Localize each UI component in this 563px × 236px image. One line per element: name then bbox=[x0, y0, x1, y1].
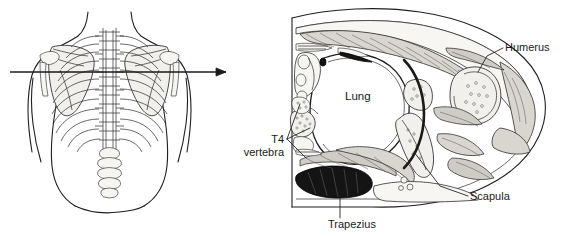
label-humerus: Humerus bbox=[505, 41, 550, 53]
anatomy-figure: Humerus Lung T4 vertebra Scapula Trapezi… bbox=[0, 0, 563, 236]
label-t4-line1: T4 bbox=[271, 133, 284, 145]
label-lung: Lung bbox=[345, 90, 371, 102]
label-t4-line2: vertebra bbox=[244, 146, 285, 158]
label-scapula: Scapula bbox=[470, 190, 511, 202]
label-trapezius: Trapezius bbox=[328, 218, 376, 230]
figure-canvas: Humerus Lung T4 vertebra Scapula Trapezi… bbox=[0, 0, 563, 236]
vessel-cluster-paravertebral bbox=[292, 97, 310, 114]
